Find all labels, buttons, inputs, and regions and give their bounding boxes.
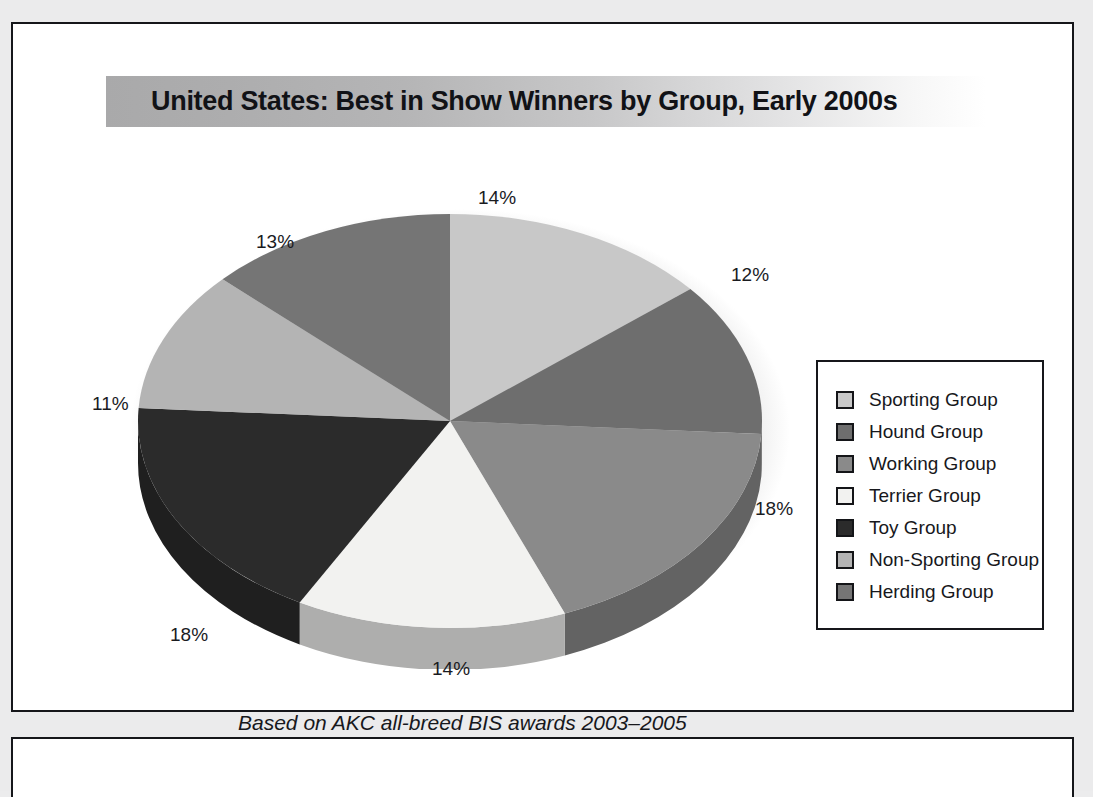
pct-label-nonsporting: 11% [92,393,129,415]
pie-chart-svg [108,199,798,669]
legend-item-label: Terrier Group [869,485,981,507]
pct-label-terrier: 14% [432,658,470,680]
next-figure-container [11,737,1074,797]
pct-label-toy: 18% [170,624,208,646]
legend-item[interactable]: Herding Group [836,576,1042,608]
legend-item[interactable]: Working Group [836,448,1042,480]
legend-item[interactable]: Non-Sporting Group [836,544,1042,576]
legend-swatch-icon [836,487,854,505]
legend-swatch-icon [836,455,854,473]
chart-legend: Sporting GroupHound GroupWorking GroupTe… [816,360,1044,630]
legend-swatch-icon [836,583,854,601]
legend-rows: Sporting GroupHound GroupWorking GroupTe… [836,384,1042,608]
legend-swatch-icon [836,423,854,441]
legend-item-label: Hound Group [869,421,983,443]
figure-container: United States: Best in Show Winners by G… [11,22,1074,712]
legend-swatch-icon [836,551,854,569]
chart-title-banner: United States: Best in Show Winners by G… [106,76,986,127]
legend-swatch-icon [836,391,854,409]
pct-label-herding: 13% [256,231,294,253]
pct-label-sporting: 14% [478,187,516,209]
legend-item-label: Working Group [869,453,996,475]
pie-chart [108,199,798,669]
legend-item-label: Herding Group [869,581,994,603]
legend-item[interactable]: Terrier Group [836,480,1042,512]
legend-swatch-icon [836,519,854,537]
legend-item[interactable]: Hound Group [836,416,1042,448]
figure-caption: Based on AKC all-breed BIS awards 2003–2… [238,711,687,735]
pct-label-hound: 12% [731,264,769,286]
legend-item-label: Sporting Group [869,389,998,411]
legend-item[interactable]: Sporting Group [836,384,1042,416]
legend-item-label: Toy Group [869,517,957,539]
legend-item-label: Non-Sporting Group [869,549,1039,571]
page-title: United States: Best in Show Winners by G… [106,86,897,117]
legend-item[interactable]: Toy Group [836,512,1042,544]
pie-slices [138,214,762,628]
pct-label-working: 18% [755,498,793,520]
